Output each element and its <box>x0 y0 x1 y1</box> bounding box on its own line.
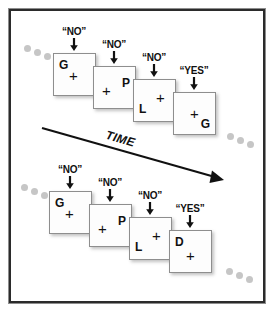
arrow-down-icon <box>183 215 197 229</box>
response-label-bottom-3: “NO” <box>130 190 170 201</box>
response-label-bottom-2: “NO” <box>90 177 130 188</box>
response-label-bottom-1: “NO” <box>50 164 90 175</box>
arrow-down-icon <box>63 176 77 190</box>
stimulus-letter: G <box>55 197 64 209</box>
response-label-bottom-4: “YES” <box>170 203 210 214</box>
fixation-cross: + <box>152 228 161 243</box>
stimulus-letter: L <box>135 241 142 253</box>
stimulus-letter: P <box>118 215 126 227</box>
stimulus-letter: D <box>175 236 184 248</box>
fixation-cross: + <box>98 221 107 236</box>
stimulus-card[interactable]: L + <box>129 217 172 260</box>
diagram-stage: “NO” “NO” “NO” “YES” G <box>0 0 274 312</box>
stimulus-card[interactable]: G + <box>49 191 92 234</box>
arrow-down-icon <box>103 189 117 203</box>
arrow-down-icon <box>143 202 157 216</box>
fixation-cross: + <box>186 248 195 263</box>
fixation-cross: + <box>65 206 74 221</box>
stimulus-card[interactable]: D + <box>169 230 212 273</box>
stimulus-card[interactable]: P + <box>89 204 132 247</box>
time-arrow <box>0 0 274 312</box>
figure-root: “NO” “NO” “NO” “YES” G <box>0 0 274 312</box>
